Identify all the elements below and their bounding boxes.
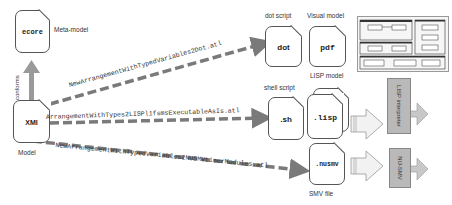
lisp-interpreter-box: LISP interpreter [387,78,411,134]
dot-caption: dot script [265,12,291,19]
nusmv-output-arrow [410,158,428,180]
lisp-output-arrow [410,103,428,125]
nusmv-document: .nusmv [309,143,345,185]
nusmv-caption: SMV file [309,190,333,197]
pdf-caption: Visual model [307,12,344,19]
xmi-label: XMI [14,118,49,125]
model-caption: Model [18,149,36,156]
sh-caption: shell script [264,84,295,91]
xmi-document: XMI [13,100,50,143]
nusmv-label: .nusmv [310,161,344,168]
sh-label: .sh [269,114,303,123]
graph-thumbnail-icon [358,17,448,71]
dot-document: dot [265,26,302,67]
lisp-interpreter-label: LISP interpreter [396,85,402,127]
ecore-document: ecore [15,10,50,53]
block-arrow-nusmv [351,151,383,181]
block-arrow-lisp [351,109,383,139]
conforms-label: conforms [14,75,20,100]
nusmv-tool-box: NU-SMV [389,148,411,188]
pdf-label: pdf [310,42,345,51]
lisp-caption: LISP model [310,72,343,79]
metamodel-caption: Meta-model [54,26,88,33]
nusmv-tool-label: NU-SMV [397,156,403,180]
arrow-to-dot [50,44,262,104]
dot-label: dot [266,42,301,51]
pdf-document: pdf [309,26,346,67]
lisp-document: .lisp [307,94,343,139]
ecore-label: ecore [16,28,49,36]
sh-document: .sh [268,97,304,140]
visual-model-thumbnail [357,16,449,72]
lisp-label: .lisp [308,112,342,121]
